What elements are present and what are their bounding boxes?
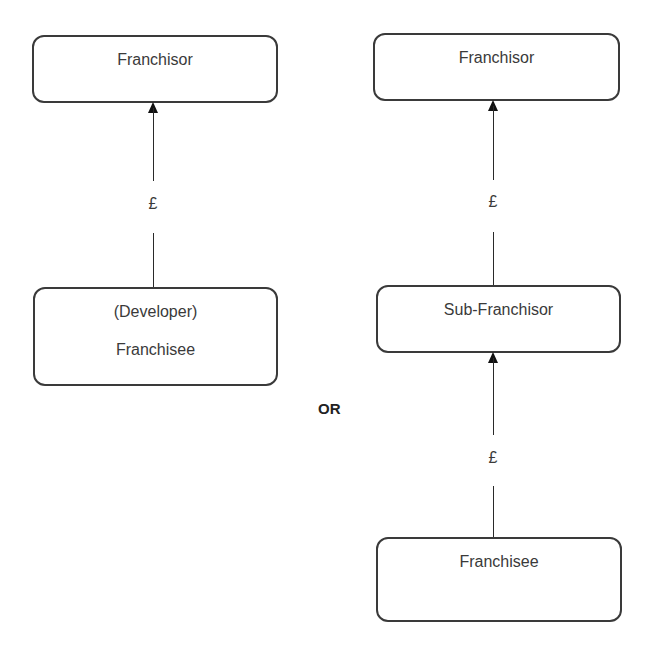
left-franchisor-box: Franchisor <box>32 35 278 103</box>
right-franchisor-box: Franchisor <box>373 33 620 101</box>
left-connector-upper <box>153 108 154 181</box>
left-developer-label: (Developer) <box>35 303 276 321</box>
right-lower-connector-upper <box>493 358 494 435</box>
left-connector-lower <box>153 233 154 288</box>
left-payment-label: £ <box>143 195 163 213</box>
right-upper-connector-upper <box>493 106 494 180</box>
left-franchisee-label: Franchisee <box>35 341 276 359</box>
sub-franchisor-box: Sub-Franchisor <box>376 285 621 353</box>
right-upper-connector-lower <box>493 232 494 286</box>
sub-franchisor-label: Sub-Franchisor <box>378 301 619 319</box>
right-upper-payment-label: £ <box>483 193 503 211</box>
right-lower-payment-label: £ <box>483 449 503 467</box>
or-separator: OR <box>318 400 341 417</box>
right-franchisor-label: Franchisor <box>375 49 618 67</box>
left-franchisor-label: Franchisor <box>34 51 276 69</box>
left-developer-franchisee-box: (Developer) Franchisee <box>33 287 278 386</box>
right-franchisee-label: Franchisee <box>378 553 620 571</box>
right-lower-connector-lower <box>493 486 494 538</box>
right-franchisee-box: Franchisee <box>376 537 622 622</box>
